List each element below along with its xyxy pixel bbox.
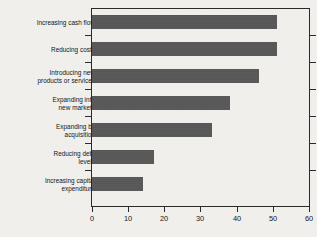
bar-increasing-cash-flow	[92, 15, 277, 29]
category-label-increasing-capital-expenditure: Increasing capital expenditure	[3, 177, 95, 192]
y-axis-tick	[85, 62, 91, 63]
category-label-reducing-debt-levels: Reducing debt levels	[3, 150, 95, 165]
category-label-line-2: products or services	[3, 77, 95, 85]
category-label-line-1: Expanding by	[3, 123, 95, 131]
category-label-introducing-new-products-or-services: Introducing new products or services	[3, 69, 95, 84]
category-label-line-2: levels	[3, 158, 95, 166]
x-axis-tick	[92, 207, 93, 212]
x-axis-tick	[128, 207, 129, 212]
category-label-line-2: new markets	[3, 104, 95, 112]
x-axis-tick	[273, 207, 274, 212]
x-axis-tick	[164, 207, 165, 212]
x-axis-label-20: 20	[152, 214, 176, 223]
y-axis-tick-right	[310, 116, 316, 117]
x-axis-label-60: 60	[297, 214, 317, 223]
bar-introducing-new-products	[92, 69, 259, 83]
category-label-line-1: Increasing cash flow	[3, 19, 95, 27]
y-axis-tick-right	[310, 62, 316, 63]
y-axis-tick-right	[310, 143, 316, 144]
x-axis-label-50: 50	[261, 214, 285, 223]
x-axis-tick	[309, 207, 310, 212]
category-label-line-1: Reducing debt	[3, 150, 95, 158]
y-axis-tick-right	[310, 35, 316, 36]
x-axis-label-40: 40	[225, 214, 249, 223]
x-axis-tick	[237, 207, 238, 212]
category-label-line-1: Expanding into	[3, 96, 95, 104]
category-label-expanding-by-acquisition: Expanding by acquisition	[3, 123, 95, 138]
bar-expanding-by-acquisition	[92, 123, 212, 137]
bar-chart: Increasing cash flow Reducing costs Intr…	[0, 0, 317, 237]
bar-increasing-capital-expenditure	[92, 177, 143, 191]
x-axis-label-10: 10	[116, 214, 140, 223]
y-axis-tick	[85, 35, 91, 36]
y-axis-tick	[85, 170, 91, 171]
category-label-line-2: acquisition	[3, 131, 95, 139]
y-axis-tick	[85, 89, 91, 90]
bar-reducing-costs	[92, 42, 277, 56]
category-label-line-2: expenditure	[3, 185, 95, 193]
category-label-line-1: Increasing capital	[3, 177, 95, 185]
category-label-reducing-costs: Reducing costs	[3, 46, 95, 54]
x-axis-tick	[200, 207, 201, 212]
y-axis-tick-right	[310, 89, 316, 90]
y-axis-tick	[85, 116, 91, 117]
category-label-line-1: Introducing new	[3, 69, 95, 77]
category-label-increasing-cash-flow: Increasing cash flow	[3, 19, 95, 27]
x-axis-label-30: 30	[188, 214, 212, 223]
category-label-expanding-into-new-markets: Expanding into new markets	[3, 96, 95, 111]
y-axis-tick-right	[310, 170, 316, 171]
bar-expanding-into-new-markets	[92, 96, 230, 110]
y-axis-tick	[85, 143, 91, 144]
bar-reducing-debt-levels	[92, 150, 154, 164]
category-label-line-1: Reducing costs	[3, 46, 95, 54]
x-axis-label-0: 0	[80, 214, 104, 223]
